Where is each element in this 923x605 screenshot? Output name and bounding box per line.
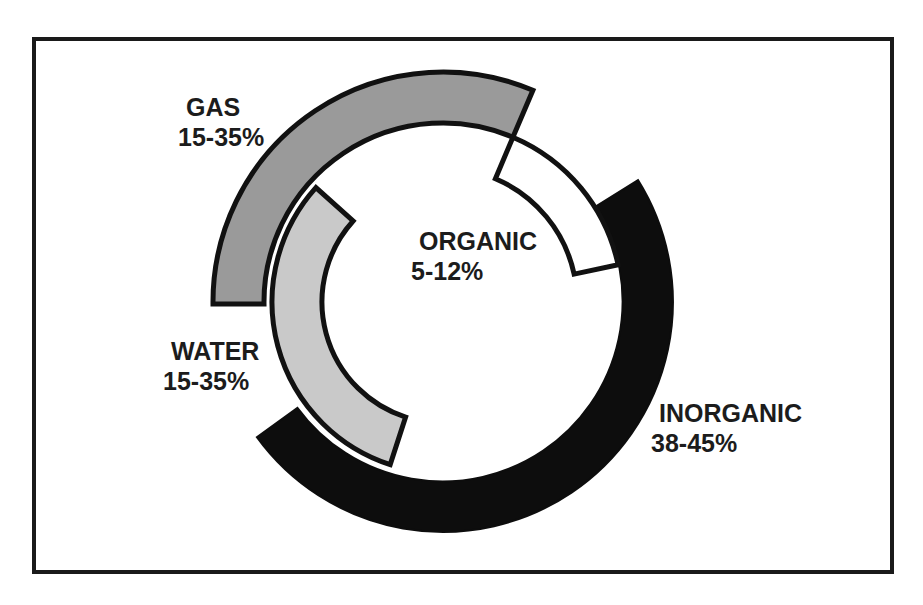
- water-name: WATER: [171, 336, 259, 366]
- ring-diagram: [0, 0, 923, 605]
- inorganic-name: INORGANIC: [659, 398, 802, 428]
- water-range: 15-35%: [163, 366, 259, 396]
- organic-range: 5-12%: [411, 256, 537, 286]
- gas-range: 15-35%: [178, 122, 264, 152]
- organic-label: ORGANIC 5-12%: [419, 226, 537, 286]
- organic-name: ORGANIC: [419, 226, 537, 256]
- gas-label: GAS 15-35%: [186, 92, 264, 152]
- gas-name: GAS: [186, 92, 264, 122]
- water-label: WATER 15-35%: [171, 336, 259, 396]
- inorganic-range: 38-45%: [651, 428, 802, 458]
- inorganic-label: INORGANIC 38-45%: [659, 398, 802, 458]
